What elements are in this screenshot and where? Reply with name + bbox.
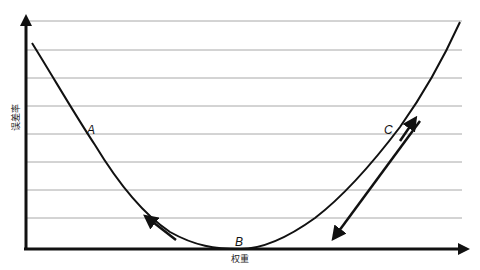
error-rate-diagram: A B C 权重 误差率 — [0, 0, 480, 270]
y-axis-label: 误差率 — [10, 104, 21, 131]
point-label-c: C — [384, 123, 393, 137]
point-label-a: A — [86, 123, 95, 137]
error-curve — [32, 22, 460, 249]
arrow-near-B-left — [149, 219, 176, 240]
x-axis-label: 权重 — [231, 253, 249, 264]
gridlines — [27, 21, 462, 218]
point-label-b: B — [235, 235, 243, 249]
